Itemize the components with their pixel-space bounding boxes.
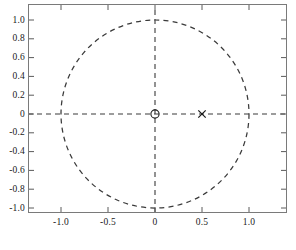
- x-tick-label: 0: [153, 218, 158, 228]
- y-tick-label: -0.4: [9, 147, 25, 157]
- y-tick-label: 0.6: [13, 53, 25, 63]
- y-tick-label: 0.8: [13, 34, 25, 44]
- y-tick-label: 0: [20, 110, 25, 120]
- y-tick-label: -0.2: [9, 128, 25, 138]
- pole-zero-plot-figure: 1.0 0.8 0.6 0.4 0.2 0 -0.2 -0.4 -0.6 -0.…: [0, 0, 296, 250]
- y-tick-label: -1.0: [9, 204, 25, 214]
- x-axis-tick-labels: -1.0 -0.5 0 0.5 1.0: [0, 218, 296, 238]
- y-tick-label: -0.6: [9, 166, 25, 176]
- y-axis-tick-labels: 1.0 0.8 0.6 0.4 0.2 0 -0.2 -0.4 -0.6 -0.…: [0, 0, 25, 250]
- x-tick-label: 1.0: [243, 218, 255, 228]
- y-tick-label: -0.8: [9, 185, 25, 195]
- plot-canvas: [28, 4, 287, 213]
- x-tick-label: -1.0: [53, 218, 69, 228]
- x-tick-label: -0.5: [100, 218, 116, 228]
- y-tick-label: 1.0: [13, 16, 25, 26]
- plot-area: [28, 4, 287, 213]
- y-tick-label: 0.4: [13, 72, 25, 82]
- x-tick-label: 0.5: [196, 218, 208, 228]
- zero-marker: [151, 110, 159, 118]
- y-tick-label: 0.2: [13, 91, 25, 101]
